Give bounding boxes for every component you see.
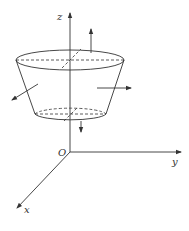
y-axis-label: y <box>171 156 178 167</box>
x-axis-label: x <box>24 204 30 215</box>
frustum-left-side <box>16 60 35 114</box>
x-axis <box>17 152 70 208</box>
diagram-canvas: z y x O <box>0 0 189 231</box>
frustum-right-side <box>106 60 124 114</box>
z-axis-label: z <box>56 11 63 22</box>
origin-label: O <box>58 147 66 158</box>
bottom-ellipse-back <box>35 108 106 114</box>
bottom-ellipse-front <box>35 114 106 120</box>
top-cross-dashed <box>62 49 81 68</box>
